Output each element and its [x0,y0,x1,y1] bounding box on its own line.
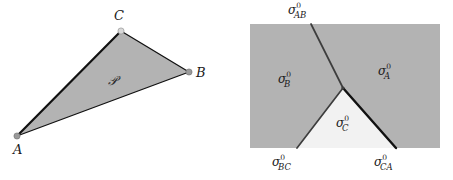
triangle-diagram-svg [0,0,226,180]
figure-root: A B C 𝒫 σ0AB σ0BC σ0CA [0,0,453,180]
triple-junction-node [341,86,344,89]
triple-junction-svg [226,0,453,180]
vertex-dot-C [118,28,124,34]
triangle-fill [17,31,189,136]
vertex-dot-B [186,69,192,75]
domain-label-P: 𝒫 [108,73,117,89]
vertex-dot-A [14,133,20,139]
triple-junction-panel: σ0AB σ0BC σ0CA σ0B σ0A σ0C [226,0,453,180]
triangle-domain-panel: A B C 𝒫 [0,0,226,180]
